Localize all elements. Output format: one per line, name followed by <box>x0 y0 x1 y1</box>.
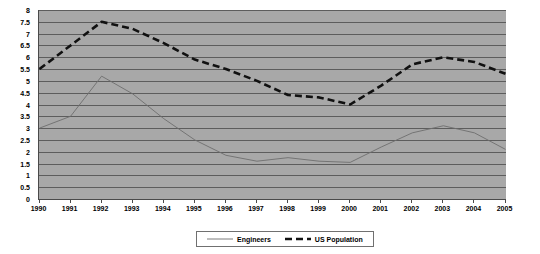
x-tick-mark <box>225 199 226 203</box>
x-tick-mark <box>473 199 474 203</box>
y-tick-label: 2.5 <box>20 136 30 143</box>
y-tick-label: 3 <box>26 125 30 132</box>
x-tick-label: 1992 <box>93 205 109 212</box>
x-tick-mark <box>287 199 288 203</box>
x-tick-label: 1994 <box>155 205 171 212</box>
x-tick-label: 1997 <box>248 205 264 212</box>
y-tick-label: 6.5 <box>20 42 30 49</box>
y-tick-label: 4.5 <box>20 89 30 96</box>
y-tick-label: 0 <box>26 196 30 203</box>
x-tick-label: 2000 <box>341 205 357 212</box>
y-tick-label: 1 <box>26 172 30 179</box>
legend-swatch <box>285 235 311 243</box>
x-tick-label: 1993 <box>124 205 140 212</box>
y-tick-label: 6 <box>26 54 30 61</box>
y-tick-label: 8 <box>26 7 30 14</box>
x-tick-label: 2004 <box>466 205 482 212</box>
line-chart: 87.576.565.554.543.532.521.510.50 199019… <box>0 0 540 254</box>
y-tick-label: 5 <box>26 77 30 84</box>
y-tick-label: 4 <box>26 101 30 108</box>
series-line-engineers <box>40 76 506 162</box>
x-tick-label: 1996 <box>217 205 233 212</box>
x-tick-mark <box>70 199 71 203</box>
x-tick-mark <box>505 199 506 203</box>
legend-swatch <box>207 235 233 243</box>
x-tick-mark <box>132 199 133 203</box>
y-tick-label: 0.5 <box>20 184 30 191</box>
plot-area <box>38 10 506 200</box>
x-tick-mark <box>442 199 443 203</box>
x-tick-label: 2003 <box>435 205 451 212</box>
x-tick-mark <box>163 199 164 203</box>
x-tick-label: 1990 <box>31 205 47 212</box>
y-tick-label: 2 <box>26 148 30 155</box>
x-tick-label: 1999 <box>310 205 326 212</box>
x-tick-label: 1998 <box>279 205 295 212</box>
y-axis: 87.576.565.554.543.532.521.510.50 <box>0 0 34 210</box>
y-tick-label: 7 <box>26 30 30 37</box>
x-tick-mark <box>39 199 40 203</box>
x-tick-mark <box>318 199 319 203</box>
series-line-us-population <box>40 22 506 105</box>
x-axis: 1990199119921993199419951996199719981999… <box>38 203 505 219</box>
y-tick-label: 1.5 <box>20 160 30 167</box>
legend-label: Engineers <box>237 236 271 243</box>
data-series-layer <box>39 10 506 199</box>
x-tick-mark <box>411 199 412 203</box>
x-tick-mark <box>349 199 350 203</box>
x-tick-mark <box>101 199 102 203</box>
x-tick-mark <box>256 199 257 203</box>
y-tick-label: 3.5 <box>20 113 30 120</box>
x-tick-label: 1991 <box>62 205 78 212</box>
x-tick-mark <box>380 199 381 203</box>
legend-entry-us-population[interactable]: US Population <box>285 235 363 243</box>
x-tick-label: 2005 <box>497 205 513 212</box>
x-tick-label: 1995 <box>186 205 202 212</box>
legend-entry-engineers[interactable]: Engineers <box>207 235 271 243</box>
x-tick-label: 2001 <box>372 205 388 212</box>
chart-legend: EngineersUS Population <box>196 231 374 247</box>
legend-label: US Population <box>315 236 363 243</box>
x-tick-label: 2002 <box>404 205 420 212</box>
y-tick-label: 5.5 <box>20 66 30 73</box>
y-tick-label: 7.5 <box>20 18 30 25</box>
x-tick-mark <box>194 199 195 203</box>
